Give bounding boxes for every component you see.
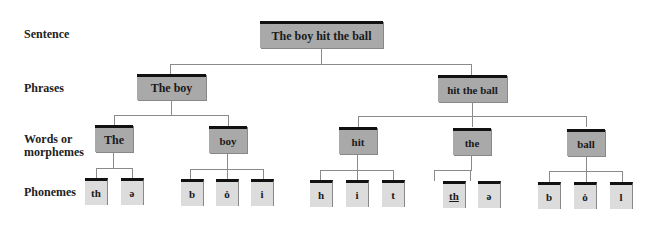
phoneme-node: ȯ <box>574 182 597 209</box>
level-label-phrases: Phrases <box>24 82 64 95</box>
phoneme-node: i <box>251 179 274 206</box>
level-label-sentence: Sentence <box>24 28 69 41</box>
connector <box>472 101 473 117</box>
connector <box>586 116 587 127</box>
connector <box>113 152 114 168</box>
word-node-the-lower: the <box>453 128 491 155</box>
sentence-node: The boy hit the ball <box>260 21 383 48</box>
connector <box>434 170 471 171</box>
connector <box>586 171 587 182</box>
connector <box>471 170 472 171</box>
connector <box>227 152 228 169</box>
word-node-hit: hit <box>339 127 377 154</box>
connector <box>434 170 435 181</box>
phrase-node-the-boy: The boy <box>137 74 206 100</box>
phoneme-node: b <box>538 182 561 209</box>
phoneme-node: t <box>382 180 405 207</box>
connector <box>170 64 472 65</box>
phoneme-node: h <box>310 180 333 207</box>
phoneme-node: th <box>85 178 108 205</box>
connector <box>471 154 472 170</box>
phoneme-node: ə <box>121 178 144 205</box>
phoneme-node: i <box>346 180 369 207</box>
connector <box>622 171 623 182</box>
connector <box>114 115 229 116</box>
connector <box>228 115 229 126</box>
connector <box>357 153 358 170</box>
level-label-words-line2: morphemes <box>24 146 84 159</box>
phoneme-node: th <box>443 181 466 208</box>
phoneme-node: b <box>181 179 204 206</box>
level-label-phonemes: Phonemes <box>24 186 76 199</box>
connector <box>171 99 172 115</box>
phrase-node-hit-the-ball: hit the ball <box>438 75 507 102</box>
phoneme-node: ȯ <box>216 179 239 206</box>
connector <box>96 168 133 169</box>
word-node-ball: ball <box>567 129 605 156</box>
connector <box>321 47 322 65</box>
connector <box>470 170 471 181</box>
word-node-the: The <box>95 125 133 152</box>
connector <box>472 116 473 127</box>
phoneme-node: ə <box>478 181 501 208</box>
connector <box>358 116 359 127</box>
word-node-boy: boy <box>209 126 247 153</box>
connector <box>549 171 550 182</box>
phoneme-node: l <box>610 182 633 209</box>
connector <box>586 155 587 171</box>
